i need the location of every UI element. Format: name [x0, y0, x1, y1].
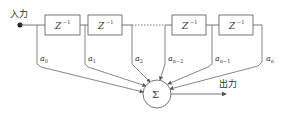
fir-diagram: 入力 Z −1 Z −1 Z −1 Z −1 — [0, 0, 287, 115]
coef-an-1: an−1 — [215, 54, 230, 64]
coef-a2: a2 — [135, 54, 143, 64]
delay-box-2: Z −1 — [88, 15, 122, 35]
sigma-icon: Σ — [152, 89, 159, 100]
coef-a1: a1 — [88, 54, 96, 64]
svg-text:Z: Z — [97, 21, 105, 31]
svg-text:−1: −1 — [106, 19, 113, 25]
svg-text:−1: −1 — [190, 19, 197, 25]
coef-an-2: an−2 — [168, 54, 183, 64]
svg-text:Z: Z — [54, 21, 62, 31]
svg-text:Z: Z — [228, 21, 236, 31]
delay-box-1: Z −1 — [45, 15, 80, 35]
coef-a0: a0 — [40, 54, 48, 64]
input-label: 入力 — [10, 8, 28, 19]
coef-an: an — [266, 54, 275, 64]
output-label: 出力 — [219, 78, 237, 89]
delay-box-4: Z −1 — [219, 15, 253, 35]
delay-box-3: Z −1 — [172, 15, 206, 35]
summation-node: Σ — [143, 80, 171, 108]
coefficient-labels: a0 a1 a2 an−2 an−1 an — [40, 54, 275, 64]
svg-text:−1: −1 — [237, 19, 244, 25]
svg-text:−1: −1 — [63, 19, 70, 25]
svg-text:Z: Z — [181, 21, 189, 31]
